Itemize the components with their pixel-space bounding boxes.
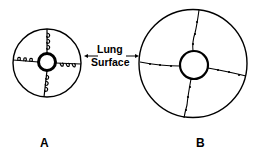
panel-a-airway: [39, 54, 56, 71]
panel-b-label: B: [196, 136, 205, 150]
panel-b-figure: [139, 10, 247, 119]
surface-label: Surface: [91, 56, 130, 68]
lung-diagram: [0, 0, 260, 158]
panel-b-outer-circle: [139, 10, 247, 118]
panel-a-label: A: [40, 136, 49, 150]
lung-label: Lung: [97, 43, 123, 55]
panel-a-figure: [13, 29, 81, 97]
panel-b-airway: [180, 51, 208, 79]
